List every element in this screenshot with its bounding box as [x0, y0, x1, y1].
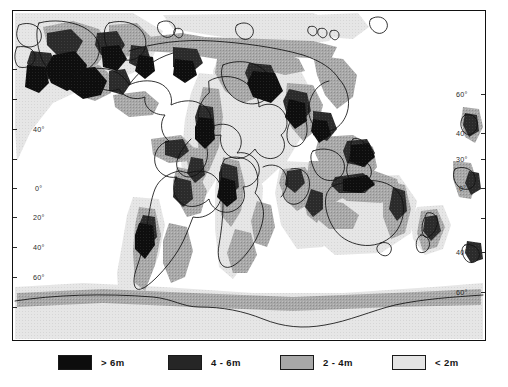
axis-label-right-60s: 60° [456, 288, 467, 297]
legend-label-lt-2m: < 2m [435, 357, 459, 368]
axis-tick-right [481, 159, 485, 160]
axis-tick-left [13, 247, 17, 248]
axis-tick-left [13, 217, 17, 218]
legend-item-lt-2m: < 2m [392, 350, 459, 374]
legend-swatch-4-6m [168, 355, 202, 370]
legend-item-gt-6m: > 6m [58, 350, 125, 374]
map-legend: > 6m 4 - 6m 2 - 4m < 2m [0, 350, 508, 378]
axis-tick-right [481, 252, 485, 253]
axis-label-left-20s: 20° [33, 213, 44, 222]
axis-tick-right [481, 94, 485, 95]
tidal-range-map-figure: 40° 0° 20° 40° 60° 60° 40° 30° 0° 40° 60… [0, 0, 508, 387]
page-corner-mark [502, 1, 504, 7]
axis-label-right-0: 0° [459, 184, 466, 193]
legend-swatch-gt-6m [58, 355, 92, 370]
axis-label-left-60s: 60° [33, 273, 44, 282]
axis-tick-left [13, 307, 17, 308]
axis-label-left-40n: 40° [33, 125, 44, 134]
axis-label-left-40s: 40° [33, 243, 44, 252]
axis-tick-left [13, 188, 17, 189]
axis-label-right-40s: 40° [456, 248, 467, 257]
legend-label-4-6m: 4 - 6m [211, 357, 241, 368]
axis-label-left-0: 0° [35, 184, 42, 193]
axis-tick-right [481, 188, 485, 189]
axis-label-right-30n: 30° [456, 155, 467, 164]
axis-tick-left [13, 69, 17, 70]
axis-tick-right [481, 218, 485, 219]
legend-label-2-4m: 2 - 4m [323, 357, 353, 368]
axis-tick-left [13, 129, 17, 130]
map-frame: 40° 0° 20° 40° 60° 60° 40° 30° 0° 40° 60… [12, 10, 486, 341]
legend-item-4-6m: 4 - 6m [168, 350, 241, 374]
legend-label-gt-6m: > 6m [101, 357, 125, 368]
axis-label-right-40n: 40° [456, 129, 467, 138]
legend-swatch-lt-2m [392, 355, 426, 370]
axis-tick-left [13, 99, 17, 100]
axis-tick-right [481, 292, 485, 293]
axis-label-right-60n: 60° [456, 90, 467, 99]
axis-tick-left [13, 277, 17, 278]
legend-item-2-4m: 2 - 4m [280, 350, 353, 374]
world-map-graphic [13, 11, 485, 340]
legend-swatch-2-4m [280, 355, 314, 370]
axis-tick-right [481, 133, 485, 134]
axis-tick-left [13, 159, 17, 160]
